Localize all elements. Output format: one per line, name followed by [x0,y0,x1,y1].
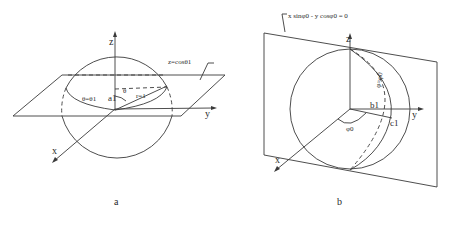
sphere-lower-arc [62,116,172,158]
plane-equation-label: x sinφ0 - y cosφ0 = 0 [288,12,348,20]
x-axis [54,109,115,161]
theta-angle-arc [115,96,126,101]
y-axis-label: y [412,109,417,120]
z-axis-label: z [346,33,351,44]
c1-line [350,109,392,118]
z-axis-label: z [109,36,114,47]
sphere-hidden-left [62,88,66,116]
plane-label-leader [282,14,287,32]
sphere-hidden-right [167,87,172,116]
radius-label: r=1 [136,92,146,100]
curve-label: θ=θ1 [82,95,97,103]
plane-label-leader [200,63,214,80]
x-axis-label: x [52,145,57,156]
y-axis [115,108,214,109]
y-arrow-icon [418,107,424,111]
theta-label: θ [123,87,127,95]
y-arrow-icon [211,106,217,110]
z-arrow-icon [113,31,117,37]
point-a1-label: a1 [108,93,117,103]
sphere-upper-arc [66,57,167,88]
plane-equation-label: z=cosθ1 [168,58,192,66]
diagram-canvas: z y x z=cosθ1 a1 r=1 θ θ=θ1 a z y x x si… [0,0,451,227]
panel-a: z y x z=cosθ1 a1 r=1 θ θ=θ1 a [13,31,225,207]
x-axis [276,109,350,170]
x-axis-label: x [275,154,280,165]
meridian-dashed [350,49,385,170]
y-axis-label: y [205,108,210,119]
point-c1-label: c1 [390,118,399,128]
panel-b: z y x x sinφ0 - y cosφ0 = 0 b1 c1 φ0 φ=φ… [264,12,437,207]
phi-label: φ0 [346,125,354,133]
phi-angle-arc [338,113,366,123]
point-b1-label: b1 [370,100,379,110]
caption-b: b [337,196,342,207]
caption-a: a [114,196,119,207]
